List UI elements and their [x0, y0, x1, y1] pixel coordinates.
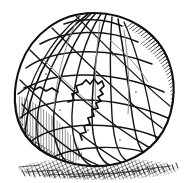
illustration-canvas: Hand-drawn wireframe globe with latitude…	[0, 0, 187, 183]
globe-illustration	[0, 0, 187, 183]
